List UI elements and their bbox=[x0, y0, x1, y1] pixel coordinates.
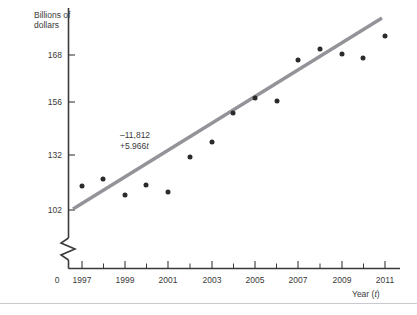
data-point bbox=[318, 47, 323, 52]
data-point bbox=[253, 96, 258, 101]
y-axis-ticks bbox=[69, 55, 76, 210]
data-point bbox=[361, 56, 366, 61]
y-axis-break-icon bbox=[61, 238, 75, 260]
bottom-divider bbox=[0, 303, 417, 304]
data-point bbox=[383, 34, 388, 39]
data-point bbox=[144, 183, 149, 188]
data-point bbox=[275, 99, 280, 104]
data-point bbox=[80, 184, 85, 189]
data-point bbox=[340, 52, 345, 57]
data-point bbox=[188, 155, 193, 160]
data-point bbox=[231, 111, 236, 116]
chart-figure: Billions of dollars 168 156 132 102 0 19… bbox=[0, 0, 417, 315]
data-point bbox=[296, 58, 301, 63]
regression-trend-line bbox=[73, 18, 382, 209]
plot-canvas bbox=[0, 0, 417, 315]
data-point bbox=[210, 140, 215, 145]
data-point bbox=[123, 193, 128, 198]
scatter-points bbox=[80, 34, 388, 198]
data-point bbox=[166, 190, 171, 195]
data-point bbox=[101, 177, 106, 182]
